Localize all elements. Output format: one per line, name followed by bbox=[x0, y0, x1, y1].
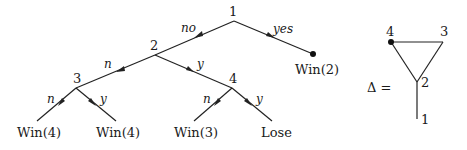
edge-1-win2: yes bbox=[234, 21, 316, 57]
edge-label-y: y bbox=[255, 92, 263, 106]
edge-4-leaf3: n bbox=[194, 88, 232, 121]
edge-4-leaf4: y bbox=[232, 88, 272, 121]
outcome-win2: Win(2) bbox=[295, 62, 339, 77]
outcome-leaf1: Win(4) bbox=[17, 125, 61, 140]
vertex-label-1: 1 bbox=[421, 112, 429, 127]
node-label-3: 3 bbox=[73, 71, 81, 86]
marked-vertex-dot bbox=[388, 39, 394, 45]
arrow-icon bbox=[186, 66, 194, 72]
arrow-icon bbox=[116, 66, 125, 72]
terminal-dot bbox=[310, 51, 316, 57]
edge-2-3: n bbox=[76, 55, 155, 88]
edge-label-n: n bbox=[203, 92, 211, 106]
node-label-4: 4 bbox=[229, 71, 237, 86]
edge-label-y: y bbox=[99, 92, 107, 106]
edge-label-y: y bbox=[196, 57, 204, 71]
game-tree: no yes n y bbox=[17, 4, 339, 140]
edge-label-yes: yes bbox=[272, 22, 293, 36]
delta-graph: Δ = 4 3 2 1 bbox=[367, 24, 448, 127]
edge-2-4: y bbox=[155, 55, 232, 88]
vertex-label-2: 2 bbox=[421, 75, 429, 90]
node-label-1: 1 bbox=[229, 4, 237, 19]
node-label-2: 2 bbox=[150, 38, 158, 53]
vertex-label-4: 4 bbox=[386, 24, 394, 39]
delta-label: Δ = bbox=[367, 80, 391, 95]
edge-label-n: n bbox=[104, 57, 112, 71]
diagram-canvas: no yes n y bbox=[0, 0, 467, 150]
outcome-leaf4: Lose bbox=[261, 125, 292, 140]
edge-1-2: no bbox=[155, 21, 234, 55]
edge-label-n: n bbox=[47, 92, 55, 106]
vertex-label-3: 3 bbox=[440, 24, 448, 39]
edge-3-leaf2: y bbox=[76, 88, 116, 121]
edge-4-2 bbox=[391, 42, 417, 82]
outcome-leaf3: Win(3) bbox=[174, 125, 218, 140]
edge-label-no: no bbox=[181, 21, 196, 35]
outcome-leaf2: Win(4) bbox=[96, 125, 140, 140]
edge-3-leaf1: n bbox=[37, 88, 76, 121]
